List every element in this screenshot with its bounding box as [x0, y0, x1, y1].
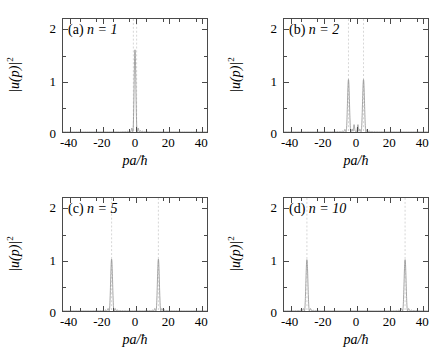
- y-tick-label: 1: [38, 74, 56, 87]
- y-tick-major: [284, 82, 289, 83]
- x-tick-major: [390, 127, 391, 132]
- x-tick-label: 0: [132, 315, 139, 328]
- x-tick-minor: [113, 308, 114, 311]
- y-axis-label-b: |u(p)|2: [226, 57, 244, 93]
- panel-label-b: (b) n = 2: [289, 22, 339, 37]
- y-tick-major: [63, 261, 68, 262]
- x-tick-major: [169, 127, 170, 132]
- x-tick-minor: [129, 198, 130, 201]
- x-tick-label: -20: [93, 315, 110, 328]
- x-tick-minor: [146, 129, 147, 132]
- y-tick-minor: [204, 287, 207, 288]
- x-tick-label: 40: [416, 315, 429, 328]
- y-tick-label: 1: [259, 74, 277, 87]
- x-tick-major: [70, 306, 71, 311]
- y-tick-minor: [284, 235, 287, 236]
- y-tick-minor: [425, 108, 428, 109]
- x-tick-minor: [400, 198, 401, 201]
- x-tick-minor: [163, 308, 164, 311]
- x-tick-label: 40: [195, 136, 208, 149]
- x-tick-label: 20: [162, 136, 175, 149]
- x-tick-minor: [367, 198, 368, 201]
- x-tick-major: [136, 198, 137, 203]
- x-tick-minor: [196, 129, 197, 132]
- x-tick-minor: [400, 129, 401, 132]
- y-tick-major: [423, 82, 428, 83]
- x-tick-label: 20: [383, 136, 396, 149]
- y-tick-minor: [63, 56, 66, 57]
- y-tick-minor: [63, 287, 66, 288]
- x-tick-major: [390, 198, 391, 203]
- x-tick-minor: [179, 198, 180, 201]
- figure-canvas: |u(p)|2 (a) n = 1 pa/ħ -40-2002040012 |u…: [0, 0, 442, 358]
- x-tick-major: [202, 198, 203, 203]
- x-tick-label: -40: [281, 136, 298, 149]
- x-axis-label-a: pa/ħ: [62, 153, 208, 169]
- x-tick-label: -20: [314, 315, 331, 328]
- momentum-distribution-curve: [63, 50, 207, 132]
- panel-label-a: (a) n = 1: [68, 22, 118, 37]
- x-tick-major: [169, 306, 170, 311]
- x-tick-label: 20: [383, 315, 396, 328]
- x-tick-minor: [367, 129, 368, 132]
- x-tick-minor: [146, 19, 147, 22]
- x-axis-label-c: pa/ħ: [62, 332, 208, 348]
- x-tick-label: -20: [314, 136, 331, 149]
- x-tick-major: [103, 306, 104, 311]
- x-tick-minor: [350, 308, 351, 311]
- x-tick-major: [357, 127, 358, 132]
- x-tick-label: 0: [132, 136, 139, 149]
- y-tick-major: [423, 29, 428, 30]
- x-tick-major: [423, 19, 424, 24]
- y-tick-minor: [425, 235, 428, 236]
- x-tick-label: 20: [162, 315, 175, 328]
- y-tick-major: [202, 29, 207, 30]
- x-tick-minor: [417, 198, 418, 201]
- x-tick-major: [324, 306, 325, 311]
- y-tick-major: [63, 82, 68, 83]
- x-tick-major: [169, 198, 170, 203]
- x-tick-minor: [129, 19, 130, 22]
- x-tick-minor: [301, 129, 302, 132]
- momentum-distribution-curve: [284, 80, 428, 132]
- y-tick-label: 0: [38, 306, 56, 319]
- x-tick-major: [202, 19, 203, 24]
- x-tick-major: [169, 19, 170, 24]
- panel-a: |u(p)|2 (a) n = 1 pa/ħ -40-2002040012: [0, 0, 221, 179]
- y-tick-major: [423, 261, 428, 262]
- x-tick-major: [291, 127, 292, 132]
- y-tick-major: [202, 82, 207, 83]
- x-tick-minor: [129, 308, 130, 311]
- y-axis-label-c: |u(p)|2: [5, 236, 23, 272]
- x-tick-minor: [384, 198, 385, 201]
- x-tick-minor: [146, 308, 147, 311]
- x-tick-minor: [417, 129, 418, 132]
- x-tick-label: 0: [353, 315, 360, 328]
- x-tick-major: [357, 306, 358, 311]
- y-tick-minor: [284, 287, 287, 288]
- x-tick-minor: [334, 308, 335, 311]
- x-tick-minor: [163, 198, 164, 201]
- y-tick-minor: [284, 56, 287, 57]
- x-tick-minor: [80, 129, 81, 132]
- x-tick-minor: [350, 129, 351, 132]
- x-tick-minor: [96, 308, 97, 311]
- x-tick-minor: [301, 308, 302, 311]
- x-tick-minor: [367, 308, 368, 311]
- y-tick-minor: [284, 108, 287, 109]
- x-tick-minor: [196, 198, 197, 201]
- x-tick-minor: [384, 308, 385, 311]
- x-tick-minor: [80, 308, 81, 311]
- x-tick-label: 40: [195, 315, 208, 328]
- y-tick-major: [423, 208, 428, 209]
- x-tick-label: 0: [353, 136, 360, 149]
- x-tick-major: [291, 306, 292, 311]
- panel-label-d: (d) n = 10: [289, 201, 346, 216]
- panel-d: |u(p)|2 (d) n = 10 pa/ħ -40-2002040012: [221, 179, 442, 358]
- x-tick-major: [357, 19, 358, 24]
- x-tick-minor: [334, 129, 335, 132]
- x-tick-minor: [367, 19, 368, 22]
- y-tick-major: [284, 261, 289, 262]
- panel-c: |u(p)|2 (c) n = 5 pa/ħ -40-2002040012: [0, 179, 221, 358]
- y-tick-label: 2: [259, 22, 277, 35]
